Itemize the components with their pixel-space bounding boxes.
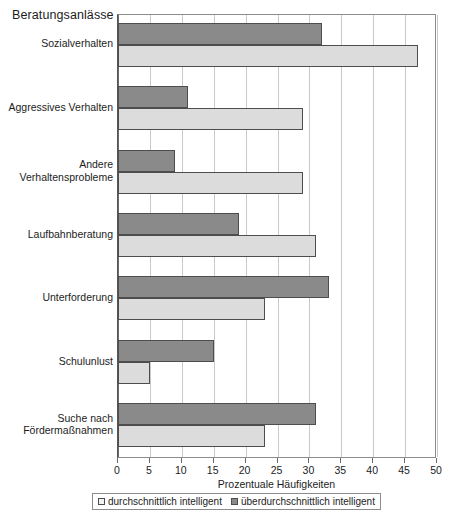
x-tick-label: 30 <box>293 464 323 476</box>
bar-group <box>118 340 435 384</box>
category-label-line: Aggressives Verhalten <box>0 101 113 114</box>
legend-entry: durchschnittlich intelligent <box>98 496 222 507</box>
y-axis-title: Beratungsanlässe <box>12 8 114 22</box>
category-label-line: Schulunlust <box>0 355 113 368</box>
legend-label: durchschnittlich intelligent <box>108 496 222 507</box>
x-tick-mark <box>436 458 437 463</box>
x-tick-mark <box>117 458 118 463</box>
x-tick-mark <box>277 458 278 463</box>
bar-group <box>118 213 435 257</box>
gridline <box>437 15 438 457</box>
x-tick-label: 45 <box>389 464 419 476</box>
category-label: Schulunlust <box>0 355 113 368</box>
bar-group <box>118 150 435 194</box>
bar-group <box>118 86 435 130</box>
category-label-line: Fördermaßnahmen <box>0 424 113 437</box>
legend-label: überdurchschnittlich intelligent <box>241 496 375 507</box>
chart-legend: durchschnittlich intelligentüberdurchsch… <box>92 493 381 510</box>
x-tick-mark <box>181 458 182 463</box>
x-tick-label: 5 <box>134 464 164 476</box>
legend-swatch-icon <box>98 498 105 505</box>
plot-area <box>117 14 436 458</box>
category-label: Suche nachFördermaßnahmen <box>0 412 113 437</box>
x-tick-mark <box>213 458 214 463</box>
bar-durchschnittlich <box>118 298 265 320</box>
x-tick-label: 0 <box>102 464 132 476</box>
bar-group <box>118 403 435 447</box>
category-label: Laufbahnberatung <box>0 228 113 241</box>
bar-chart: Beratungsanlässe SozialverhaltenAggressi… <box>0 0 452 515</box>
bar-durchschnittlich <box>118 45 418 67</box>
x-tick-label: 20 <box>230 464 260 476</box>
category-label-line: Verhaltensprobleme <box>0 171 113 184</box>
category-label: Sozialverhalten <box>0 37 113 50</box>
bar-ueberdurchschnittlich <box>118 86 188 108</box>
x-tick-mark <box>404 458 405 463</box>
bar-ueberdurchschnittlich <box>118 150 175 172</box>
bar-ueberdurchschnittlich <box>118 23 322 45</box>
bar-durchschnittlich <box>118 362 150 384</box>
x-tick-label: 35 <box>325 464 355 476</box>
category-label-line: Andere <box>0 158 113 171</box>
x-tick-mark <box>149 458 150 463</box>
category-label-line: Suche nach <box>0 412 113 425</box>
bar-durchschnittlich <box>118 172 303 194</box>
x-tick-mark <box>245 458 246 463</box>
bar-durchschnittlich <box>118 235 316 257</box>
category-label-line: Unterforderung <box>0 291 113 304</box>
category-label: Aggressives Verhalten <box>0 101 113 114</box>
x-tick-mark <box>308 458 309 463</box>
bar-durchschnittlich <box>118 425 265 447</box>
category-label-line: Sozialverhalten <box>0 37 113 50</box>
category-label: AndereVerhaltensprobleme <box>0 158 113 183</box>
bar-durchschnittlich <box>118 108 303 130</box>
category-label: Unterforderung <box>0 291 113 304</box>
x-tick-label: 25 <box>262 464 292 476</box>
x-tick-label: 40 <box>357 464 387 476</box>
x-tick-label: 15 <box>198 464 228 476</box>
x-tick-label: 10 <box>166 464 196 476</box>
x-tick-mark <box>372 458 373 463</box>
bar-group <box>118 23 435 67</box>
legend-swatch-icon <box>231 498 238 505</box>
x-axis-title: Prozentuale Häufigkeiten <box>117 478 436 490</box>
bar-group <box>118 276 435 320</box>
bar-ueberdurchschnittlich <box>118 213 239 235</box>
x-tick-label: 50 <box>421 464 451 476</box>
category-label-line: Laufbahnberatung <box>0 228 113 241</box>
x-tick-mark <box>340 458 341 463</box>
bar-ueberdurchschnittlich <box>118 403 316 425</box>
legend-entry: überdurchschnittlich intelligent <box>231 496 375 507</box>
bar-ueberdurchschnittlich <box>118 276 329 298</box>
bar-ueberdurchschnittlich <box>118 340 214 362</box>
